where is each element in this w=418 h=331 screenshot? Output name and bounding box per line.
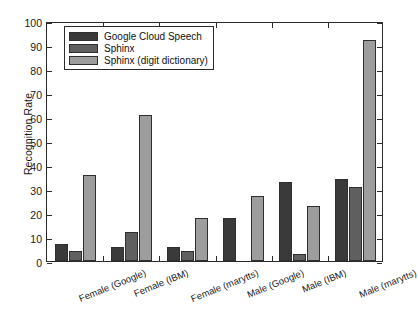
bar xyxy=(167,247,180,261)
legend-label: Sphinx xyxy=(104,43,135,54)
y-tick-label: 40 xyxy=(30,161,42,173)
bar xyxy=(69,251,82,261)
legend-item: Google Cloud Speech xyxy=(69,30,208,42)
y-tick-label: 10 xyxy=(30,233,42,245)
legend-swatch xyxy=(69,56,98,65)
bar xyxy=(349,187,362,261)
bar xyxy=(83,175,96,261)
legend-label: Google Cloud Speech xyxy=(104,31,202,42)
bar xyxy=(223,218,236,261)
y-tick-label: 0 xyxy=(36,257,42,269)
bar xyxy=(293,254,306,261)
x-category-label: Male (marytts) xyxy=(357,267,417,300)
bar xyxy=(279,182,292,261)
legend-item: Sphinx xyxy=(69,42,208,54)
y-tick-label: 100 xyxy=(24,17,42,29)
y-tick-label: 50 xyxy=(30,137,42,149)
bar xyxy=(363,40,376,261)
y-tick-label: 90 xyxy=(30,41,42,53)
legend-label: Sphinx (digit dictionary) xyxy=(104,55,208,66)
bar xyxy=(111,247,124,261)
bar xyxy=(125,232,138,261)
bar xyxy=(307,206,320,261)
bar xyxy=(251,196,264,261)
y-tick-label: 30 xyxy=(30,185,42,197)
legend-item: Sphinx (digit dictionary) xyxy=(69,54,208,66)
y-tick-label: 20 xyxy=(30,209,42,221)
bar xyxy=(195,218,208,261)
y-tick-label: 80 xyxy=(30,65,42,77)
bar xyxy=(181,251,194,261)
y-tick-label: 60 xyxy=(30,113,42,125)
chart-legend: Google Cloud SpeechSphinxSphinx (digit d… xyxy=(64,26,214,70)
legend-swatch xyxy=(69,44,98,53)
y-tick-mark xyxy=(377,263,382,264)
x-category-label: Male (IBM) xyxy=(300,267,347,295)
y-tick-mark xyxy=(47,263,52,264)
bar xyxy=(335,179,348,261)
legend-swatch xyxy=(69,32,98,41)
y-tick-label: 70 xyxy=(30,89,42,101)
bar xyxy=(139,115,152,261)
bar xyxy=(55,244,68,261)
